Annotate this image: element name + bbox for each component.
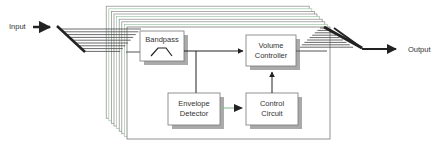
envelope-detector-label-2: Detector (180, 109, 209, 118)
control-circuit-block: Control Circuit (246, 93, 302, 129)
input-splitter (57, 26, 85, 52)
input-label: Input (9, 22, 27, 31)
output-label: Output (408, 45, 431, 54)
envelope-detector-block: Envelope Detector (168, 93, 224, 129)
bandpass-label: Bandpass (145, 35, 179, 44)
volume-controller-label-2: Controller (255, 51, 288, 60)
multiband-compressor-diagram: Input Output Bandpass Volume Controller (0, 0, 441, 148)
bandpass-block: Bandpass (140, 31, 188, 65)
volume-controller-label-1: Volume (258, 41, 283, 50)
volume-controller-block: Volume Controller (246, 35, 300, 70)
control-circuit-label-1: Control (260, 99, 285, 108)
envelope-detector-label-1: Envelope (178, 99, 209, 108)
control-circuit-label-2: Circuit (261, 109, 283, 118)
